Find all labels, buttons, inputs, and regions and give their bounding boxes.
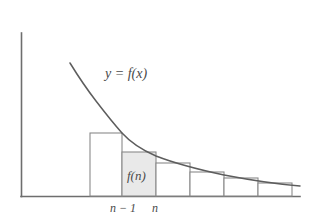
bar-rect-2 [156,163,190,196]
shaded-bar-label: f(n) [127,168,146,183]
tick-label-n: n [152,201,158,215]
curve-label: y = f(x) [103,66,147,82]
figure-container: y = f(x) f(n) n − 1 n [0,0,317,221]
integral-test-figure: y = f(x) f(n) n − 1 n [0,0,317,221]
tick-label-n-minus-1: n − 1 [110,201,136,215]
bar-rect-3 [190,172,224,196]
bar-rect-0 [90,133,122,196]
